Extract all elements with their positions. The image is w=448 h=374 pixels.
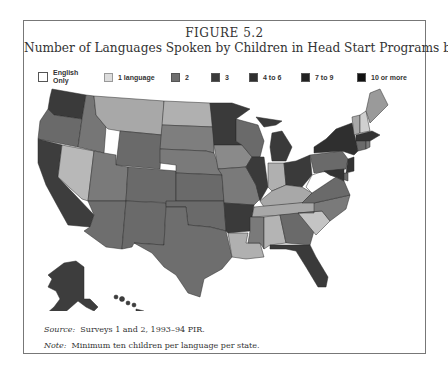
state-ri xyxy=(366,141,370,149)
state-me xyxy=(366,89,388,123)
figure-title: Number of Languages Spoken by Children i… xyxy=(24,41,425,55)
us-map xyxy=(24,81,427,311)
state-ks xyxy=(176,173,224,201)
state-ct xyxy=(356,141,366,151)
figure-frame: FIGURE 5.2 Number of Languages Spoken by… xyxy=(23,20,426,354)
state-oh xyxy=(284,155,312,187)
legend-label: English xyxy=(53,69,78,76)
state-ak xyxy=(38,261,98,311)
legend-label: 7 to 9 xyxy=(315,74,333,81)
source-note: Source: Surveys 1 and 2, 1993–94 PIR. xyxy=(44,325,205,334)
state-ny xyxy=(314,123,358,155)
legend-label: 1 language xyxy=(118,74,155,81)
legend-label: 2 xyxy=(185,74,189,81)
state-wy xyxy=(116,131,162,169)
legend-label: 4 to 6 xyxy=(263,74,281,81)
state-sd xyxy=(160,125,214,153)
state-ar xyxy=(224,203,254,233)
state-shapes xyxy=(38,89,388,311)
state-nd xyxy=(162,101,214,127)
state-hi xyxy=(114,295,144,311)
state-co xyxy=(126,167,176,203)
footnote: Note: Minimum ten children per language … xyxy=(44,341,260,350)
figure-number: FIGURE 5.2 xyxy=(24,26,425,40)
state-fl xyxy=(270,245,328,287)
state-nm xyxy=(122,201,166,249)
legend-label: 10 or more xyxy=(371,74,407,81)
legend-label: 3 xyxy=(225,74,229,81)
